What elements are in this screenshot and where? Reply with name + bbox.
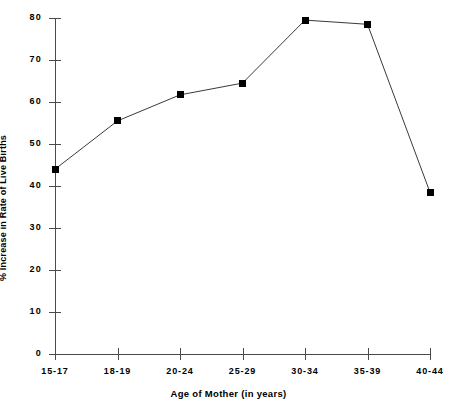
x-tick-label-20-24: 20-24 [145, 366, 215, 376]
x-tick-25-29 [243, 348, 244, 360]
data-point-18-19 [114, 117, 121, 124]
y-tick-30 [49, 228, 61, 229]
y-tick-label-60: 60 [2, 96, 42, 106]
x-tick-label-30-34: 30-34 [270, 366, 340, 376]
x-tick-label-40-44: 40-44 [395, 366, 457, 376]
y-tick-40 [49, 186, 61, 187]
y-tick-label-40: 40 [2, 180, 42, 190]
y-tick-label-0: 0 [2, 348, 42, 358]
x-tick-label-35-39: 35-39 [333, 366, 403, 376]
x-tick-35-39 [368, 348, 369, 360]
chart-figure: % Increase in Rate of Live Births 010203… [0, 0, 457, 416]
y-tick-10 [49, 312, 61, 313]
x-tick-label-25-29: 25-29 [208, 366, 278, 376]
y-tick-60 [49, 102, 61, 103]
y-tick-20 [49, 270, 61, 271]
y-tick-70 [49, 60, 61, 61]
y-tick-label-50: 50 [2, 138, 42, 148]
y-tick-50 [49, 144, 61, 145]
data-point-40-44 [427, 189, 434, 196]
data-point-35-39 [364, 21, 371, 28]
x-tick-label-18-19: 18-19 [83, 366, 153, 376]
y-tick-80 [49, 18, 61, 19]
x-tick-30-34 [305, 348, 306, 360]
data-point-15-17 [52, 166, 59, 173]
x-tick-15-17 [55, 348, 56, 360]
y-tick-label-30: 30 [2, 222, 42, 232]
x-axis-title: Age of Mother (in years) [0, 388, 457, 399]
x-tick-label-15-17: 15-17 [20, 366, 90, 376]
x-tick-20-24 [180, 348, 181, 360]
data-point-20-24 [177, 91, 184, 98]
x-tick-40-44 [430, 348, 431, 360]
y-tick-label-80: 80 [2, 12, 42, 22]
y-tick-label-20: 20 [2, 264, 42, 274]
data-point-30-34 [302, 17, 309, 24]
data-point-25-29 [239, 80, 246, 87]
series-polyline [55, 20, 430, 192]
y-tick-label-70: 70 [2, 54, 42, 64]
x-tick-18-19 [118, 348, 119, 360]
y-tick-label-10: 10 [2, 306, 42, 316]
y-axis-title-text: % Increase in Rate of Live Births [0, 135, 8, 281]
